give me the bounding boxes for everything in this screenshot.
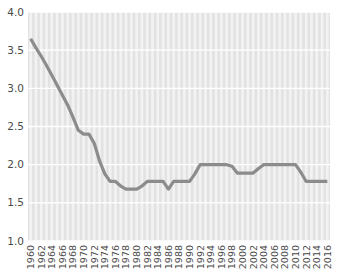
x-axis-tick-label: 1994: [205, 245, 216, 269]
x-axis-tick-label: 1980: [131, 245, 142, 269]
x-axis-tick-label: 1984: [152, 245, 163, 269]
x-axis-tick-label: 1990: [184, 245, 195, 269]
chart-container: 4.03.53.02.52.01.51.0 196019621964196619…: [0, 0, 341, 279]
x-axis-tick-label: 1972: [89, 245, 100, 269]
x-axis-tick-label: 2008: [279, 245, 290, 269]
x-axis-tick-label: 1976: [110, 245, 121, 269]
y-axis-tick-label: 1.0: [7, 235, 24, 247]
line-chart: 4.03.53.02.52.01.51.0 196019621964196619…: [0, 0, 341, 279]
x-axis-tick-label: 2002: [248, 245, 259, 269]
x-axis-tick-label: 2006: [269, 245, 280, 269]
x-axis-tick-label: 1992: [195, 245, 206, 269]
x-axis-tick-label: 1978: [120, 245, 131, 269]
x-axis-tick-label: 1986: [163, 245, 174, 269]
x-axis-tick-label: 1962: [36, 245, 47, 269]
x-axis-tick-label: 1982: [142, 245, 153, 269]
x-axis-tick-label: 1960: [25, 245, 36, 269]
y-axis-tick-label: 2.5: [7, 120, 24, 132]
y-axis-tick-label: 1.5: [7, 196, 24, 208]
x-axis-tick-label: 1970: [78, 245, 89, 269]
x-axis-tick-label: 1964: [46, 245, 57, 269]
x-axis-tick-label: 1988: [173, 245, 184, 269]
x-axis-tick-label: 1974: [99, 245, 110, 269]
x-axis-tick-label: 2012: [301, 245, 312, 269]
y-axis-tick-label: 3.0: [7, 82, 24, 94]
y-axis-tick-labels: 4.03.53.02.52.01.51.0: [7, 6, 24, 247]
x-axis-tick-label: 2014: [311, 245, 322, 269]
x-axis-tick-label: 1998: [226, 245, 237, 269]
x-axis-tick-label: 1966: [57, 245, 68, 269]
x-axis-tick-label: 2016: [322, 245, 333, 269]
x-axis-tick-labels: 1960196219641966196819701972197419761978…: [25, 245, 333, 269]
y-axis-tick-label: 4.0: [7, 6, 24, 18]
x-axis-tick-label: 1968: [67, 245, 78, 269]
x-axis-tick-label: 1996: [216, 245, 227, 269]
x-axis-tick-label: 2010: [290, 245, 301, 269]
x-axis-tick-label: 2000: [237, 245, 248, 269]
x-axis-tick-label: 2004: [258, 245, 269, 269]
y-axis-tick-label: 2.0: [7, 158, 24, 170]
y-axis-tick-label: 3.5: [7, 44, 24, 56]
